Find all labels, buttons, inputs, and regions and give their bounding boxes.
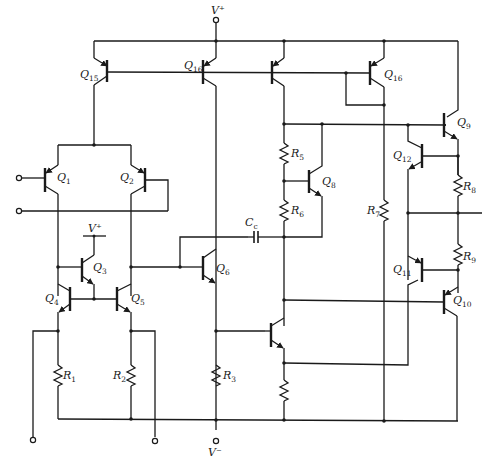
label-vplus-inner: V⁺	[88, 222, 102, 235]
label-q4: Q4	[45, 292, 59, 307]
label-r6: R6	[290, 204, 304, 219]
label-r3: R3	[222, 369, 236, 384]
vplus-rail	[94, 17, 458, 42]
transistor-q12	[408, 125, 460, 280]
label-r7: R7	[366, 204, 380, 219]
transistor-q11	[408, 256, 460, 282]
label-q9: Q9	[457, 116, 471, 131]
op-amp-schematic: V⁺ V⁺ V⁻ Q15 Q16 Q16 Q1 Q2 Q3 Q4 Q5 Q6 Q…	[0, 0, 482, 466]
resistor-r5	[280, 124, 288, 200]
resistor-unlabeled	[280, 380, 288, 420]
resistor-r1	[54, 331, 62, 419]
resistor-r7	[380, 200, 388, 421]
label-q13: Q15	[80, 68, 99, 83]
transistor-q1	[16, 145, 58, 296]
label-q14: Q16	[184, 59, 203, 74]
label-q11: Q11	[393, 263, 412, 278]
label-r9: R9	[462, 250, 476, 265]
transistor-q6	[180, 249, 216, 283]
transistor-q13	[94, 41, 107, 145]
label-r1: R1	[62, 369, 76, 384]
transistor-q10	[444, 287, 458, 421]
label-q1: Q1	[57, 171, 71, 186]
schematic-drawing: V⁺ V⁺ V⁻ Q15 Q16 Q16 Q1 Q2 Q3 Q4 Q5 Q6 Q…	[0, 0, 482, 466]
label-q3: Q3	[93, 261, 107, 276]
vminus-terminal	[213, 438, 218, 443]
transistor-q7	[265, 318, 284, 348]
input-terminal-1[interactable]	[16, 175, 21, 180]
transistor-q9	[444, 113, 458, 175]
label-q12: Q12	[393, 149, 412, 164]
label-q6: Q6	[216, 262, 230, 277]
resistor-r9	[454, 213, 462, 293]
resistor-r6	[280, 200, 288, 326]
label-q16: Q16	[384, 68, 403, 83]
label-q2: Q2	[120, 171, 134, 186]
label-q8: Q8	[322, 175, 336, 190]
transistor-q16	[346, 41, 386, 200]
offset-null-terminal-2[interactable]	[152, 438, 157, 443]
resistor-r8	[454, 156, 462, 213]
label-vminus: V⁻	[208, 446, 222, 459]
label-cc: Cc	[245, 216, 258, 231]
label-r8: R8	[462, 180, 476, 195]
offset-null-terminal-1[interactable]	[30, 437, 35, 442]
label-vplus-top: V⁺	[211, 4, 225, 17]
transistor-q8	[284, 124, 322, 237]
label-r5: R5	[290, 147, 304, 162]
capacitor-cc	[248, 231, 284, 243]
resistor-r2	[127, 331, 135, 419]
transistor-q5	[117, 284, 131, 331]
input-terminal-2[interactable]	[16, 208, 21, 213]
label-r2: R2	[112, 369, 126, 384]
transistor-q15	[272, 41, 284, 124]
vplus-terminal	[213, 17, 218, 22]
label-q10: Q10	[453, 294, 472, 309]
transistor-q4	[58, 284, 70, 331]
label-q5: Q5	[131, 292, 145, 307]
